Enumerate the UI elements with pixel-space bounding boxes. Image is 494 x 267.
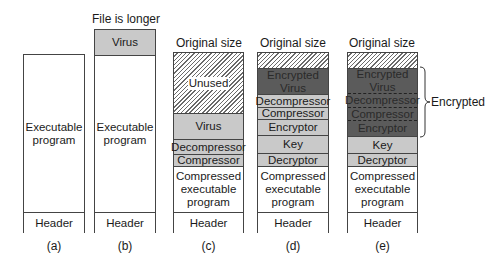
segment-label: Virus <box>196 120 222 133</box>
encrypted-brace-label: Encrypted <box>431 95 485 109</box>
segment-label: Compressed executable program <box>350 170 415 209</box>
virus-segment: Virus <box>174 113 243 139</box>
virus-segment: Virus <box>95 30 155 55</box>
segment-label: Decompressor <box>171 141 246 154</box>
segment-label: Key <box>283 138 303 151</box>
segment-label: Header <box>35 217 73 230</box>
header-segment: Header <box>258 212 328 233</box>
panel-b-caption: (b) <box>94 239 156 253</box>
panel-c-top-label: Original size <box>170 36 248 50</box>
unused-segment: Unused <box>174 53 243 113</box>
header-segment: Header <box>348 212 417 233</box>
segment-label: Executable program <box>26 121 83 147</box>
segment-label: Key <box>373 139 393 152</box>
panel-d-file: Encrypted Virus Decompressor Compressor … <box>257 52 329 233</box>
panel-e-top-label: Original size <box>343 36 421 50</box>
unused-segment <box>348 53 417 68</box>
encryptor-segment: Encryptor <box>258 119 328 135</box>
segment-label: Encryptor <box>268 121 317 134</box>
encrypted-decompressor-segment: Decompressor <box>348 93 417 107</box>
panel-e-caption: (e) <box>347 239 418 253</box>
segment-label: Virus <box>112 36 138 49</box>
compressor-segment: Compressor <box>258 107 328 119</box>
unused-segment <box>258 53 328 68</box>
compressed-program-segment: Compressed executable program <box>174 166 243 212</box>
panel-d-top-label: Original size <box>254 36 332 50</box>
panel-c-file: Unused Virus Decompressor Compressor Com… <box>173 52 244 233</box>
header-segment: Header <box>24 212 84 233</box>
segment-label: Decryptor <box>268 154 318 167</box>
header-segment: Header <box>174 212 243 233</box>
segment-label: Unused <box>188 77 230 90</box>
compressed-program-segment: Compressed executable program <box>348 166 417 212</box>
compressed-program-segment: Compressed executable program <box>258 166 328 212</box>
panel-e-file: Encrypted Virus Decompressor Compressor … <box>347 52 418 233</box>
decompressor-segment: Decompressor <box>174 139 243 154</box>
panel-c-caption: (c) <box>173 239 244 253</box>
executable-program-segment: Executable program <box>24 55 84 212</box>
segment-label: Encrypted Virus <box>357 68 409 94</box>
segment-label: Encryptor <box>358 122 407 135</box>
encrypted-virus-segment: Encrypted Virus <box>348 68 417 93</box>
segment-label: Compressed executable program <box>260 170 325 209</box>
segment-label: Compressor <box>351 108 414 121</box>
segment-label: Executable program <box>97 121 154 147</box>
segment-label: Header <box>190 217 228 230</box>
segment-label: Compressed executable program <box>176 170 241 209</box>
compressor-segment: Compressor <box>174 154 243 166</box>
panel-a-caption: (a) <box>23 239 85 253</box>
segment-label: Decompressor <box>256 95 331 108</box>
decompressor-segment: Decompressor <box>258 94 328 107</box>
panel-a-file: Executable program Header <box>23 54 85 233</box>
segment-label: Encrypted Virus <box>267 69 319 95</box>
executable-program-segment: Executable program <box>95 55 155 212</box>
panel-b-file: Virus Executable program Header <box>94 29 156 233</box>
segment-label: Header <box>106 217 144 230</box>
panel-d-caption: (d) <box>257 239 329 253</box>
curly-brace-icon <box>418 66 432 138</box>
decryptor-segment: Decryptor <box>258 153 328 166</box>
decryptor-segment: Decryptor <box>348 153 417 166</box>
header-segment: Header <box>95 212 155 233</box>
panel-b-top-label: File is longer <box>90 12 162 26</box>
encrypted-encryptor-segment: Encryptor <box>348 120 417 136</box>
key-segment: Key <box>258 135 328 153</box>
segment-label: Header <box>364 217 402 230</box>
segment-label: Decompressor <box>345 94 420 107</box>
encrypted-virus-segment: Encrypted Virus <box>258 68 328 94</box>
segment-label: Header <box>274 217 312 230</box>
key-segment: Key <box>348 136 417 153</box>
segment-label: Decryptor <box>358 154 408 167</box>
encrypted-compressor-segment: Compressor <box>348 107 417 120</box>
